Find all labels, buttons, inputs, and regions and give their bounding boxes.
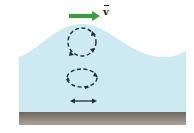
- water-body: [19, 24, 186, 113]
- seabed: [19, 112, 186, 125]
- velocity-label: v: [103, 7, 109, 17]
- wave-diagram: [0, 0, 194, 133]
- velocity-arrow-icon: [69, 11, 100, 21]
